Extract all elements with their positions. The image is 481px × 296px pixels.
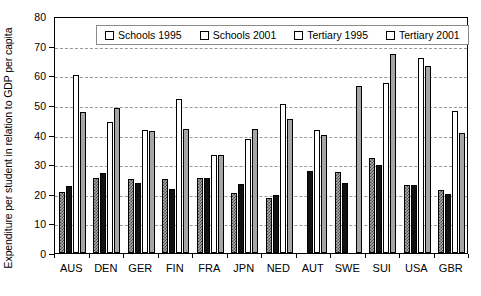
plot-area — [54, 17, 468, 254]
bar-ger-schools-2001 — [135, 183, 141, 253]
bar-jpn-schools-2001 — [238, 184, 244, 253]
bar-jpn-schools-1995 — [231, 193, 237, 253]
bar-group-usa — [404, 18, 431, 253]
bar-ned-schools-2001 — [273, 195, 279, 253]
y-tick-label: 50 — [20, 100, 46, 112]
bar-fin-tertiary-1995 — [176, 99, 182, 253]
bar-aus-schools-1995 — [59, 192, 65, 253]
x-tick-mark — [365, 254, 366, 258]
y-tick-label: 60 — [20, 70, 46, 82]
bar-ger-tertiary-1995 — [142, 130, 148, 253]
x-tick-mark — [261, 254, 262, 258]
bar-ned-tertiary-1995 — [280, 104, 286, 253]
bar-aus-tertiary-2001 — [80, 112, 86, 253]
y-tick-label: 20 — [20, 189, 46, 201]
bar-group-sui — [369, 18, 396, 253]
y-tick-label: 40 — [20, 130, 46, 142]
x-axis-labels: AUSDENGERFINFRAJPNNEDAUTSWESUIUSAGBR — [54, 262, 468, 280]
bar-sui-schools-2001 — [376, 165, 382, 253]
legend-label: Schools 1995 — [118, 29, 182, 41]
bar-ger-schools-1995 — [128, 179, 134, 253]
x-tick-mark — [158, 254, 159, 258]
x-tick-label-ned: NED — [267, 262, 290, 274]
bar-group-ger — [128, 18, 155, 253]
bar-usa-tertiary-1995 — [418, 58, 424, 253]
x-tick-label-den: DEN — [94, 262, 117, 274]
bar-den-schools-2001 — [100, 173, 106, 253]
y-tick-label: 0 — [20, 248, 46, 260]
x-tick-label-gbr: GBR — [439, 262, 463, 274]
legend-swatch-icon — [105, 31, 114, 40]
bar-group-ned — [266, 18, 293, 253]
x-tick-mark — [123, 254, 124, 258]
chart-legend: Schools 1995Schools 2001Tertiary 1995Ter… — [96, 25, 469, 45]
bar-swe-schools-2001 — [342, 183, 348, 253]
bar-jpn-tertiary-2001 — [252, 129, 258, 253]
x-tick-label-ger: GER — [128, 262, 152, 274]
legend-label: Tertiary 1995 — [307, 29, 368, 41]
x-tick-label-sui: SUI — [373, 262, 391, 274]
x-axis-ticks — [54, 254, 468, 262]
y-tick-label: 10 — [20, 218, 46, 230]
bar-group-gbr — [438, 18, 465, 253]
legend-swatch-icon — [200, 31, 209, 40]
bar-gbr-tertiary-1995 — [452, 111, 458, 253]
legend-swatch-icon — [386, 31, 395, 40]
bar-den-tertiary-2001 — [114, 108, 120, 253]
bar-sui-tertiary-1995 — [383, 83, 389, 253]
x-tick-mark — [330, 254, 331, 258]
bar-usa-schools-1995 — [404, 185, 410, 253]
x-tick-label-fin: FIN — [166, 262, 184, 274]
bars-layer — [55, 18, 467, 253]
bar-fin-schools-1995 — [162, 179, 168, 253]
legend-label: Schools 2001 — [213, 29, 277, 41]
bar-fra-tertiary-1995 — [211, 155, 217, 253]
bar-ger-tertiary-2001 — [149, 131, 155, 253]
legend-label: Tertiary 2001 — [399, 29, 460, 41]
plot-inner — [55, 18, 467, 253]
bar-fra-schools-1995 — [197, 178, 203, 253]
x-tick-label-aut: AUT — [302, 262, 324, 274]
legend-item-schools-2001: Schools 2001 — [200, 29, 277, 41]
bar-aut-schools-2001 — [307, 171, 313, 253]
bar-group-fra — [197, 18, 224, 253]
bar-jpn-tertiary-1995 — [245, 139, 251, 253]
bar-sui-schools-1995 — [369, 158, 375, 253]
bar-swe-schools-1995 — [335, 172, 341, 253]
bar-usa-tertiary-2001 — [425, 66, 431, 253]
x-tick-label-fra: FRA — [198, 262, 220, 274]
bar-den-tertiary-1995 — [107, 122, 113, 253]
bar-den-schools-1995 — [93, 178, 99, 253]
bar-fra-tertiary-2001 — [218, 155, 224, 253]
bar-gbr-schools-1995 — [438, 190, 444, 253]
y-tick-label: 30 — [20, 159, 46, 171]
bar-swe-tertiary-2001 — [356, 86, 362, 253]
legend-item-tertiary-2001: Tertiary 2001 — [386, 29, 460, 41]
y-tick-label: 70 — [20, 41, 46, 53]
bar-usa-schools-2001 — [411, 185, 417, 253]
bar-aus-tertiary-1995 — [73, 75, 79, 253]
bar-group-aut — [300, 18, 327, 253]
y-tick-label: 80 — [20, 11, 46, 23]
bar-fin-schools-2001 — [169, 189, 175, 253]
x-tick-mark — [227, 254, 228, 258]
x-tick-label-usa: USA — [405, 262, 428, 274]
bar-sui-tertiary-2001 — [390, 54, 396, 253]
x-tick-label-aus: AUS — [60, 262, 83, 274]
bar-fin-tertiary-2001 — [183, 129, 189, 253]
x-tick-mark — [434, 254, 435, 258]
bar-group-den — [93, 18, 120, 253]
bar-group-fin — [162, 18, 189, 253]
bar-ned-schools-1995 — [266, 198, 272, 253]
bar-ned-tertiary-2001 — [287, 119, 293, 253]
bar-aut-tertiary-1995 — [314, 130, 320, 253]
x-tick-mark — [399, 254, 400, 258]
bar-group-aus — [59, 18, 86, 253]
x-tick-mark — [296, 254, 297, 258]
bar-aut-tertiary-2001 — [321, 135, 327, 253]
bar-gbr-tertiary-2001 — [459, 133, 465, 253]
legend-swatch-icon — [294, 31, 303, 40]
x-tick-label-jpn: JPN — [233, 262, 254, 274]
bar-group-jpn — [231, 18, 258, 253]
bar-fra-schools-2001 — [204, 178, 210, 253]
